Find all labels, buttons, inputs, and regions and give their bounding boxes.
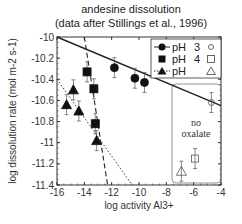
y-tick-label: -10.6 <box>31 95 54 106</box>
fit-line-dashed <box>84 37 107 185</box>
y-tick-label: -10.8 <box>31 116 54 127</box>
y-tick-label: -10 <box>40 32 55 43</box>
filled-square-marker <box>90 85 98 93</box>
filled-triangle-marker <box>74 106 84 115</box>
x-axis-label: log activity Al3+ <box>104 200 173 211</box>
legend-label: pH <box>172 41 186 53</box>
x-tick-label: -12 <box>104 187 119 198</box>
filled-triangle-marker <box>68 85 78 94</box>
annotation-no: no <box>191 117 201 128</box>
x-tick-label: -14 <box>77 187 92 198</box>
legend-label: pH <box>172 65 186 77</box>
fit-line-dotted <box>57 79 132 185</box>
chart-plot: -16-14-12-10-8-6-4-10-10.2-10.4-10.6-10.… <box>0 0 242 224</box>
x-tick-label: -10 <box>132 187 147 198</box>
x-tick-label: -4 <box>217 187 226 198</box>
y-axis-label: log dissolution rate (mol m-2 s-1) <box>7 38 18 184</box>
legend-marker-circle <box>159 44 166 51</box>
filled-circle-marker <box>140 78 148 86</box>
filled-triangle-marker <box>62 100 72 109</box>
legend-label: pH <box>172 53 186 65</box>
y-tick-label: -10.4 <box>31 74 54 85</box>
y-tick-label: -11.2 <box>32 158 54 169</box>
annotation-oxalate: oxalate <box>182 128 211 139</box>
x-tick-label: -6 <box>189 187 198 198</box>
legend-value: 3 <box>194 41 200 53</box>
filled-square-marker <box>83 68 91 76</box>
y-tick-label: -10.2 <box>31 53 54 64</box>
x-tick-label: -8 <box>162 187 171 198</box>
filled-circle-marker <box>131 74 139 82</box>
y-tick-label: -11 <box>40 137 54 148</box>
y-tick-label: -11.4 <box>32 180 54 191</box>
legend-value: 4 <box>194 53 200 65</box>
filled-circle-marker <box>110 64 118 72</box>
filled-square-marker <box>91 120 99 128</box>
legend-marker-square <box>159 56 166 63</box>
